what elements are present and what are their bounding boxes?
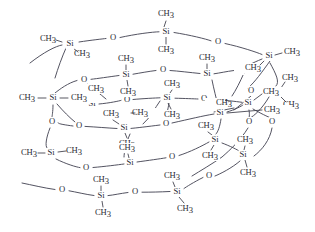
backbone-segment — [108, 193, 128, 196]
methyl-group-label: CH3 — [282, 72, 309, 84]
methyl-group-label: CH3 — [197, 52, 217, 64]
svg-text:O: O — [269, 116, 275, 126]
methyl-group-label: CH3 — [162, 170, 182, 182]
methyl-group-label: CH3 — [74, 48, 101, 60]
methyl-group-label: CH3 — [234, 62, 261, 74]
svg-text:Si: Si — [47, 147, 55, 157]
silicon-atom-label: Si — [120, 122, 129, 133]
methyl-group-label: CH3 — [117, 142, 137, 154]
silicon-atom-label: Si — [203, 68, 212, 79]
methyl-group-label: CH3 — [264, 104, 291, 116]
svg-text:Si: Si — [120, 122, 128, 132]
methyl-group-label: CH3 — [200, 150, 220, 162]
backbone-segment — [85, 126, 117, 128]
si-methyl-bond — [245, 160, 247, 167]
methyl-group-label: CH3 — [235, 134, 255, 146]
silicon-atom-label: Si — [97, 190, 106, 201]
backbone-segment — [137, 158, 166, 162]
polysiloxane-helix-svg: SiOSiOSiOSiOSiOSiOSiSiOSiOSiSiOOSiOOOSiO… — [0, 0, 315, 232]
silicon-atom-label: Si — [216, 107, 225, 118]
methyl-group-label: CH3 — [238, 167, 258, 179]
svg-text:Si: Si — [211, 134, 219, 144]
methyl-group-label: CH3 — [162, 109, 182, 121]
oxygen-atom-label: O — [59, 184, 66, 195]
svg-text:O: O — [160, 64, 166, 74]
methyl-group-label: CH3 — [132, 107, 159, 119]
methyl-group-label: CH3 — [10, 147, 37, 159]
methyl-group-label: CH3 — [66, 145, 93, 157]
oxygen-atom-label: O — [169, 151, 176, 162]
backbone-segment — [30, 45, 62, 63]
methyl-group-label: CH3 — [93, 207, 113, 219]
silicon-atom-label: Si — [265, 50, 274, 61]
svg-text:Si: Si — [126, 157, 134, 167]
methyl-group-label: CH3 — [156, 8, 176, 20]
svg-text:O: O — [206, 170, 212, 180]
svg-text:Si: Si — [49, 92, 57, 102]
silicon-atom-label: Si — [122, 69, 131, 80]
methyl-group-label: CH3 — [284, 46, 311, 58]
backbone-segment — [133, 71, 156, 75]
svg-text:O: O — [81, 74, 87, 84]
methyl-group-label: CH3 — [263, 86, 290, 98]
methyl-group-label: CH3 — [196, 120, 216, 132]
si-methyl-bond — [58, 151, 66, 152]
svg-text:Si: Si — [265, 50, 273, 60]
si-methyl-bond — [275, 53, 282, 55]
methyl-group-label: CH3 — [118, 86, 138, 98]
svg-text:Si: Si — [163, 92, 171, 102]
backbone-segment — [56, 159, 80, 168]
backbone-segment — [184, 178, 203, 189]
backbone-segment — [52, 105, 53, 117]
oxygen-atom-label: O — [76, 120, 83, 131]
methyl-group-label: CH3 — [175, 203, 195, 215]
molecule-diagram: SiOSiOSiOSiOSiOSiOSiSiOSiOSiSiOOSiOOOSiO… — [0, 0, 315, 232]
backbone-segment — [79, 39, 106, 43]
oxygen-atom-label: O — [248, 85, 255, 96]
methyl-group-label: CH3 — [101, 108, 121, 120]
svg-text:Si: Si — [216, 107, 224, 117]
oxygen-atom-label: O — [49, 116, 56, 127]
si-methyl-bond — [113, 120, 119, 124]
svg-text:O: O — [76, 120, 82, 130]
backbone-segment — [270, 63, 278, 86]
methyl-group-label: CH3 — [156, 44, 176, 56]
backbone-segment — [225, 44, 262, 55]
backbone-segment — [232, 73, 244, 96]
backbone-segment — [57, 104, 75, 122]
oxygen-atom-label: O — [246, 116, 253, 127]
methyl-labels: CH3CH3CH3CH3CH3CH3CH3CH3CH3CH3CH3CH3CH3C… — [8, 8, 311, 219]
methyl-group-label: CH3 — [205, 97, 232, 109]
svg-text:O: O — [83, 162, 89, 172]
svg-text:Si: Si — [162, 26, 170, 36]
silicon-atom-label: Si — [126, 157, 135, 168]
oxygen-atom-label: O — [269, 116, 276, 127]
svg-text:O: O — [59, 184, 65, 194]
svg-text:O: O — [110, 32, 116, 42]
silicon-atom-label: Si — [47, 147, 56, 158]
backbone-segment — [22, 183, 55, 190]
svg-text:Si: Si — [239, 149, 247, 159]
backbone-segment — [142, 192, 170, 193]
methyl-group-label: CH3 — [116, 53, 136, 65]
methyl-group-label: CH3 — [162, 78, 182, 90]
oxygen-atom-label: O — [132, 186, 139, 197]
backbone-segment — [214, 71, 234, 74]
svg-text:O: O — [169, 151, 175, 161]
svg-text:Si: Si — [66, 38, 74, 48]
silicon-atom-label: Si — [211, 134, 220, 145]
methyl-group-label: CH3 — [8, 92, 35, 104]
methyl-group-label: CH3 — [29, 33, 56, 45]
backbone-segment — [174, 33, 211, 41]
svg-text:Si: Si — [173, 186, 181, 196]
backbone-segment — [91, 76, 119, 80]
backbone-segment — [170, 71, 200, 74]
svg-text:Si: Si — [203, 68, 211, 78]
svg-text:O: O — [246, 116, 252, 126]
si-methyl-bond — [254, 94, 262, 100]
oxygen-atom-label: O — [110, 32, 117, 43]
methyl-group-label: CH3 — [86, 83, 106, 95]
backbone-segment — [93, 164, 124, 168]
svg-text:Si: Si — [97, 190, 105, 200]
backbone-segment — [69, 191, 94, 196]
